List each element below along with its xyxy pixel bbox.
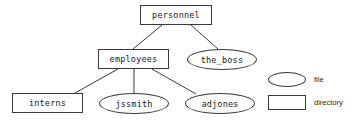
legend-label-directory: directory xyxy=(314,99,343,107)
legend-swatch-directory xyxy=(268,95,306,110)
node-label: interns xyxy=(29,98,66,108)
edge-employees-to-adjones xyxy=(152,69,196,94)
legend-label-file: file xyxy=(314,76,324,84)
edge-personnel-to-the_boss xyxy=(191,25,218,49)
edge-employees-to-interns xyxy=(75,69,118,93)
node-employees[interactable]: employees xyxy=(98,49,169,69)
node-jssmith[interactable]: jssmith xyxy=(99,93,169,114)
filesystem-tree-diagram: personnelemployeesthe_bossinternsjssmith… xyxy=(0,0,353,122)
legend-swatch-file xyxy=(268,72,306,87)
node-label: adjones xyxy=(201,99,238,109)
node-label: personnel xyxy=(152,10,200,20)
node-interns[interactable]: interns xyxy=(12,93,83,113)
node-label: the_boss xyxy=(201,55,244,65)
node-the_boss[interactable]: the_boss xyxy=(187,49,257,70)
node-label: employees xyxy=(110,54,158,64)
edge-personnel-to-employees xyxy=(133,25,162,49)
node-label: jssmith xyxy=(115,99,152,109)
node-personnel[interactable]: personnel xyxy=(140,5,212,25)
node-adjones[interactable]: adjones xyxy=(185,93,255,114)
